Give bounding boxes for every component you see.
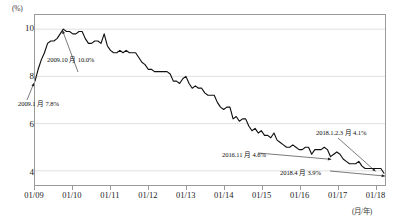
annotation-peak: 2009.10 月 10.0%: [47, 54, 94, 64]
x-tick-mark: [262, 186, 263, 190]
x-tick-mark: [376, 186, 377, 190]
x-tick-mark: [186, 186, 187, 190]
x-tick-01-17: 01/17: [328, 190, 347, 200]
x-tick-mark: [300, 186, 301, 190]
x-tick-mark: [110, 186, 111, 190]
plot-area: [34, 14, 386, 186]
x-tick-01-10: 01/10: [62, 190, 81, 200]
unemployment-rate-chart: (%) 10864 01/0901/1001/1101/1201/1301/14…: [0, 0, 395, 219]
x-tick-01-12: 01/12: [138, 190, 157, 200]
x-tick-mark: [148, 186, 149, 190]
y-tick-10: 10: [8, 23, 34, 33]
y-tick-8: 8: [8, 71, 34, 81]
chart-svg: [35, 15, 385, 185]
y-tick-4: 4: [8, 167, 34, 177]
x-tick-01-09: 01/09: [24, 190, 43, 200]
y-axis-tick-labels: 10864: [4, 0, 34, 219]
annotation-mid: 2016.11 月 4.6%: [222, 149, 266, 159]
x-axis-tick-labels: 01/0901/1001/1101/1201/1301/1401/1501/16…: [0, 190, 395, 210]
x-tick-01-15: 01/15: [252, 190, 271, 200]
x-tick-mark: [224, 186, 225, 190]
x-tick-01-14: 01/14: [214, 190, 233, 200]
y-tick-6: 6: [8, 119, 34, 129]
x-axis-unit-label: (月/年): [352, 205, 372, 216]
x-tick-mark: [72, 186, 73, 190]
x-tick-01-13: 01/13: [176, 190, 195, 200]
x-tick-01-11: 01/11: [100, 190, 119, 200]
x-tick-01-18: 01/18: [366, 190, 385, 200]
annotation-start: 2009.1 月 7.8%: [18, 98, 59, 108]
x-tick-01-16: 01/16: [290, 190, 309, 200]
x-tick-mark: [338, 186, 339, 190]
annotation-plateau: 2018.1.2.3 月 4.1%: [316, 127, 366, 137]
x-tick-mark: [34, 186, 35, 190]
annotation-end: 2018.4 月 3.9%: [280, 167, 321, 177]
